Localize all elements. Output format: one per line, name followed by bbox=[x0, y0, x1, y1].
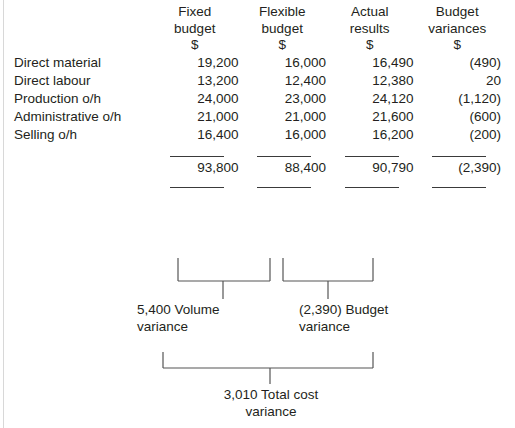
column-header-budget-variances-line2: variances bbox=[414, 21, 502, 38]
row-label-selling-oh: Selling o/h bbox=[14, 126, 151, 144]
volume-variance-bracket bbox=[178, 258, 270, 299]
row-label-direct-labour: Direct labour bbox=[14, 72, 151, 90]
totals-rule-below-actual-results bbox=[326, 177, 414, 188]
totals-rule-below-fixed-budget bbox=[151, 177, 239, 188]
totals-rule-below bbox=[14, 177, 501, 188]
budget-variance-bracket bbox=[283, 258, 373, 299]
column-header-flexible-budget: Flexible budget bbox=[239, 4, 327, 37]
currency-symbol-flexible-budget: $ bbox=[239, 37, 327, 54]
total-cost-variance-bracket bbox=[163, 352, 373, 384]
totals-rule-above-actual-results bbox=[326, 144, 414, 157]
totals-row-label bbox=[14, 157, 151, 177]
currency-symbol-actual-results: $ bbox=[326, 37, 414, 54]
totals-row: 93,800 88,400 90,790 (2,390) bbox=[14, 157, 501, 177]
cell-selling-oh-fixed-budget: 16,400 bbox=[151, 126, 239, 144]
cell-production-oh-fixed-budget: 24,000 bbox=[151, 90, 239, 108]
table-row: Selling o/h 16,400 16,000 16,200 (200) bbox=[14, 126, 501, 144]
row-label-administrative-oh: Administrative o/h bbox=[14, 108, 151, 126]
volume-variance-caption: 5,400 Volume variance bbox=[137, 301, 287, 335]
total-actual-results: 90,790 bbox=[326, 157, 414, 177]
column-header-actual-results: Actual results bbox=[326, 4, 414, 37]
table-row: Direct material 19,200 16,000 16,490 (49… bbox=[14, 54, 501, 72]
column-header-row-label bbox=[14, 4, 151, 37]
page-edge-rule bbox=[3, 0, 4, 428]
totals-rule-below-spacer bbox=[14, 177, 151, 188]
totals-rule-above-budget-variances bbox=[414, 144, 502, 157]
cell-selling-oh-flexible-budget: 16,000 bbox=[239, 126, 327, 144]
table-row: Administrative o/h 21,000 21,000 21,600 … bbox=[14, 108, 501, 126]
totals-rule-above-flexible-budget bbox=[239, 144, 327, 157]
currency-row-spacer bbox=[14, 37, 151, 54]
totals-rule-below-budget-variances bbox=[414, 177, 502, 188]
total-fixed-budget: 93,800 bbox=[151, 157, 239, 177]
cell-administrative-oh-budget-variance: (600) bbox=[414, 108, 502, 126]
cell-selling-oh-budget-variance: (200) bbox=[414, 126, 502, 144]
cell-direct-material-flexible-budget: 16,000 bbox=[239, 54, 327, 72]
totals-rule-above-spacer bbox=[14, 144, 151, 157]
column-header-fixed-budget-line1: Fixed bbox=[151, 4, 239, 21]
currency-symbol-budget-variances: $ bbox=[414, 37, 502, 54]
cell-production-oh-actual-results: 24,120 bbox=[326, 90, 414, 108]
column-header-actual-results-line1: Actual bbox=[326, 4, 414, 21]
cell-administrative-oh-flexible-budget: 21,000 bbox=[239, 108, 327, 126]
table-row: Direct labour 13,200 12,400 12,380 20 bbox=[14, 72, 501, 90]
column-header-budget-variances-line1: Budget bbox=[414, 4, 502, 21]
totals-rule-above bbox=[14, 144, 501, 157]
variance-table: Fixed budget Flexible budget Actual resu… bbox=[14, 4, 501, 188]
column-header-actual-results-line2: results bbox=[326, 21, 414, 38]
header-row-titles: Fixed budget Flexible budget Actual resu… bbox=[14, 4, 501, 37]
cell-administrative-oh-fixed-budget: 21,000 bbox=[151, 108, 239, 126]
column-header-flexible-budget-line1: Flexible bbox=[239, 4, 327, 21]
cell-production-oh-budget-variance: (1,120) bbox=[414, 90, 502, 108]
cell-direct-labour-fixed-budget: 13,200 bbox=[151, 72, 239, 90]
row-label-production-oh: Production o/h bbox=[14, 90, 151, 108]
header-row-currency: $ $ $ $ bbox=[14, 37, 501, 54]
cell-direct-material-budget-variance: (490) bbox=[414, 54, 502, 72]
row-label-direct-material: Direct material bbox=[14, 54, 151, 72]
cell-direct-labour-budget-variance: 20 bbox=[414, 72, 502, 90]
cell-selling-oh-actual-results: 16,200 bbox=[326, 126, 414, 144]
column-header-flexible-budget-line2: budget bbox=[239, 21, 327, 38]
totals-rule-below-flexible-budget bbox=[239, 177, 327, 188]
cell-administrative-oh-actual-results: 21,600 bbox=[326, 108, 414, 126]
table-body: Direct material 19,200 16,000 16,490 (49… bbox=[14, 54, 501, 188]
variance-statement-page: Fixed budget Flexible budget Actual resu… bbox=[0, 0, 515, 428]
currency-symbol-fixed-budget: $ bbox=[151, 37, 239, 54]
cell-direct-labour-flexible-budget: 12,400 bbox=[239, 72, 327, 90]
cell-direct-labour-actual-results: 12,380 bbox=[326, 72, 414, 90]
cell-direct-material-fixed-budget: 19,200 bbox=[151, 54, 239, 72]
column-header-budget-variances: Budget variances bbox=[414, 4, 502, 37]
total-cost-variance-caption: 3,010 Total cost variance bbox=[176, 386, 366, 420]
table-header: Fixed budget Flexible budget Actual resu… bbox=[14, 4, 501, 54]
column-header-fixed-budget: Fixed budget bbox=[151, 4, 239, 37]
totals-rule-above-fixed-budget bbox=[151, 144, 239, 157]
cell-direct-material-actual-results: 16,490 bbox=[326, 54, 414, 72]
table-row: Production o/h 24,000 23,000 24,120 (1,1… bbox=[14, 90, 501, 108]
total-budget-variances: (2,390) bbox=[414, 157, 502, 177]
cell-production-oh-flexible-budget: 23,000 bbox=[239, 90, 327, 108]
budget-variance-caption: (2,390) Budget variance bbox=[299, 301, 449, 335]
total-flexible-budget: 88,400 bbox=[239, 157, 327, 177]
column-header-fixed-budget-line2: budget bbox=[151, 21, 239, 38]
